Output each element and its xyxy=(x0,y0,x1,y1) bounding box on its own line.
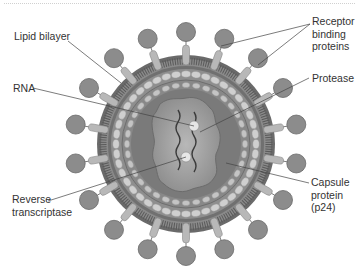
receptor-knob xyxy=(66,154,85,173)
receptor-knob xyxy=(215,240,234,259)
label-lipid-bilayer: Lipid bilayer xyxy=(14,30,70,43)
receptor-knob xyxy=(138,29,157,48)
receptor-knob xyxy=(80,191,99,210)
receptor-knob xyxy=(105,49,124,68)
receptor-knob xyxy=(248,220,267,239)
receptor-knob xyxy=(177,23,196,42)
receptor-knob xyxy=(80,79,99,98)
label-capsule-protein: Capsule protein (p24) xyxy=(311,176,350,214)
viral-core xyxy=(152,97,220,191)
receptor-knob xyxy=(287,115,306,134)
label-protease: Protease xyxy=(312,72,354,85)
label-reverse-transcriptase: Reverse transcriptase xyxy=(12,193,72,218)
label-receptor-binding-proteins: Receptor binding proteins xyxy=(312,15,355,53)
receptor-knob xyxy=(66,115,85,134)
receptor-knob xyxy=(138,240,157,259)
label-rna: RNA xyxy=(13,82,35,95)
receptor-knob xyxy=(287,154,306,173)
receptor-knob xyxy=(273,79,292,98)
receptor-knob xyxy=(105,220,124,239)
receptor-knob xyxy=(273,191,292,210)
receptor-knob xyxy=(177,247,196,266)
